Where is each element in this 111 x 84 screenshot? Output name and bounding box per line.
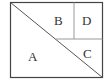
partitioned-rectangle-diagram: B D A C [0, 0, 111, 84]
region-label-a: A [28, 49, 38, 64]
region-label-c: C [83, 46, 92, 61]
region-label-d: D [82, 13, 91, 28]
region-label-b: B [54, 13, 63, 28]
